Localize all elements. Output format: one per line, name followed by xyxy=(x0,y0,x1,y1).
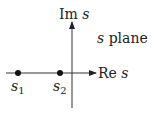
point-s1 xyxy=(15,70,21,76)
plane-label: s plane xyxy=(97,30,148,46)
point-s1-label: s1 xyxy=(11,78,25,96)
real-axis-label: Re s xyxy=(98,65,128,81)
point-s2-label: s2 xyxy=(53,78,67,96)
s-plane-diagram: s1 s2 Re s Im s s plane xyxy=(0,0,154,118)
point-s2 xyxy=(57,70,63,76)
imaginary-axis-label: Im s xyxy=(59,6,89,22)
